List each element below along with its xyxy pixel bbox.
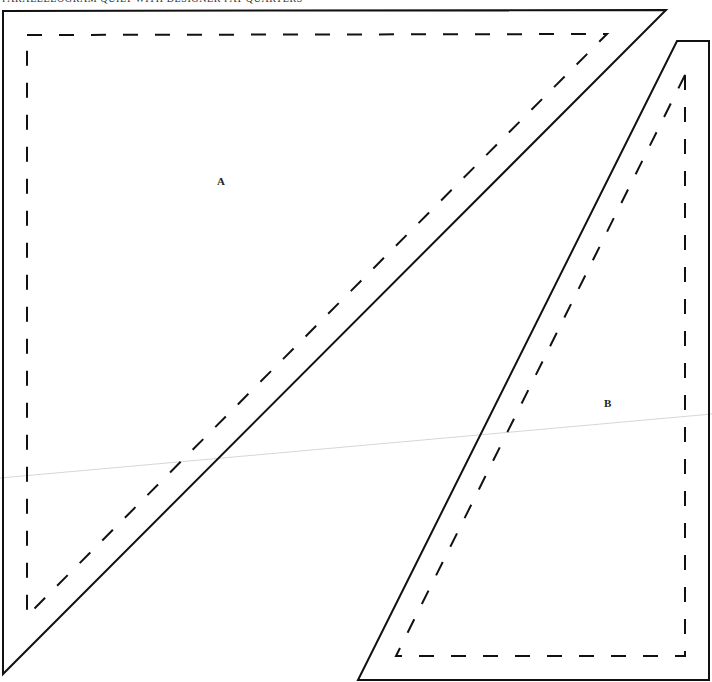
pattern-drawing <box>0 0 712 682</box>
piece-b-label: B <box>604 397 611 409</box>
faint-fold-line <box>0 414 712 478</box>
pattern-piece-a <box>3 10 666 674</box>
pattern-piece-b <box>358 41 709 680</box>
piece-a-label: A <box>217 175 225 187</box>
piece-a-seam-line <box>27 34 607 616</box>
piece-a-cutting-line <box>3 10 666 674</box>
piece-b-seam-line <box>396 75 685 656</box>
piece-b-cutting-line <box>358 41 709 680</box>
pattern-page: PARALLELOGRAM QUILT WITH DESIGNER FAT QU… <box>0 0 712 682</box>
